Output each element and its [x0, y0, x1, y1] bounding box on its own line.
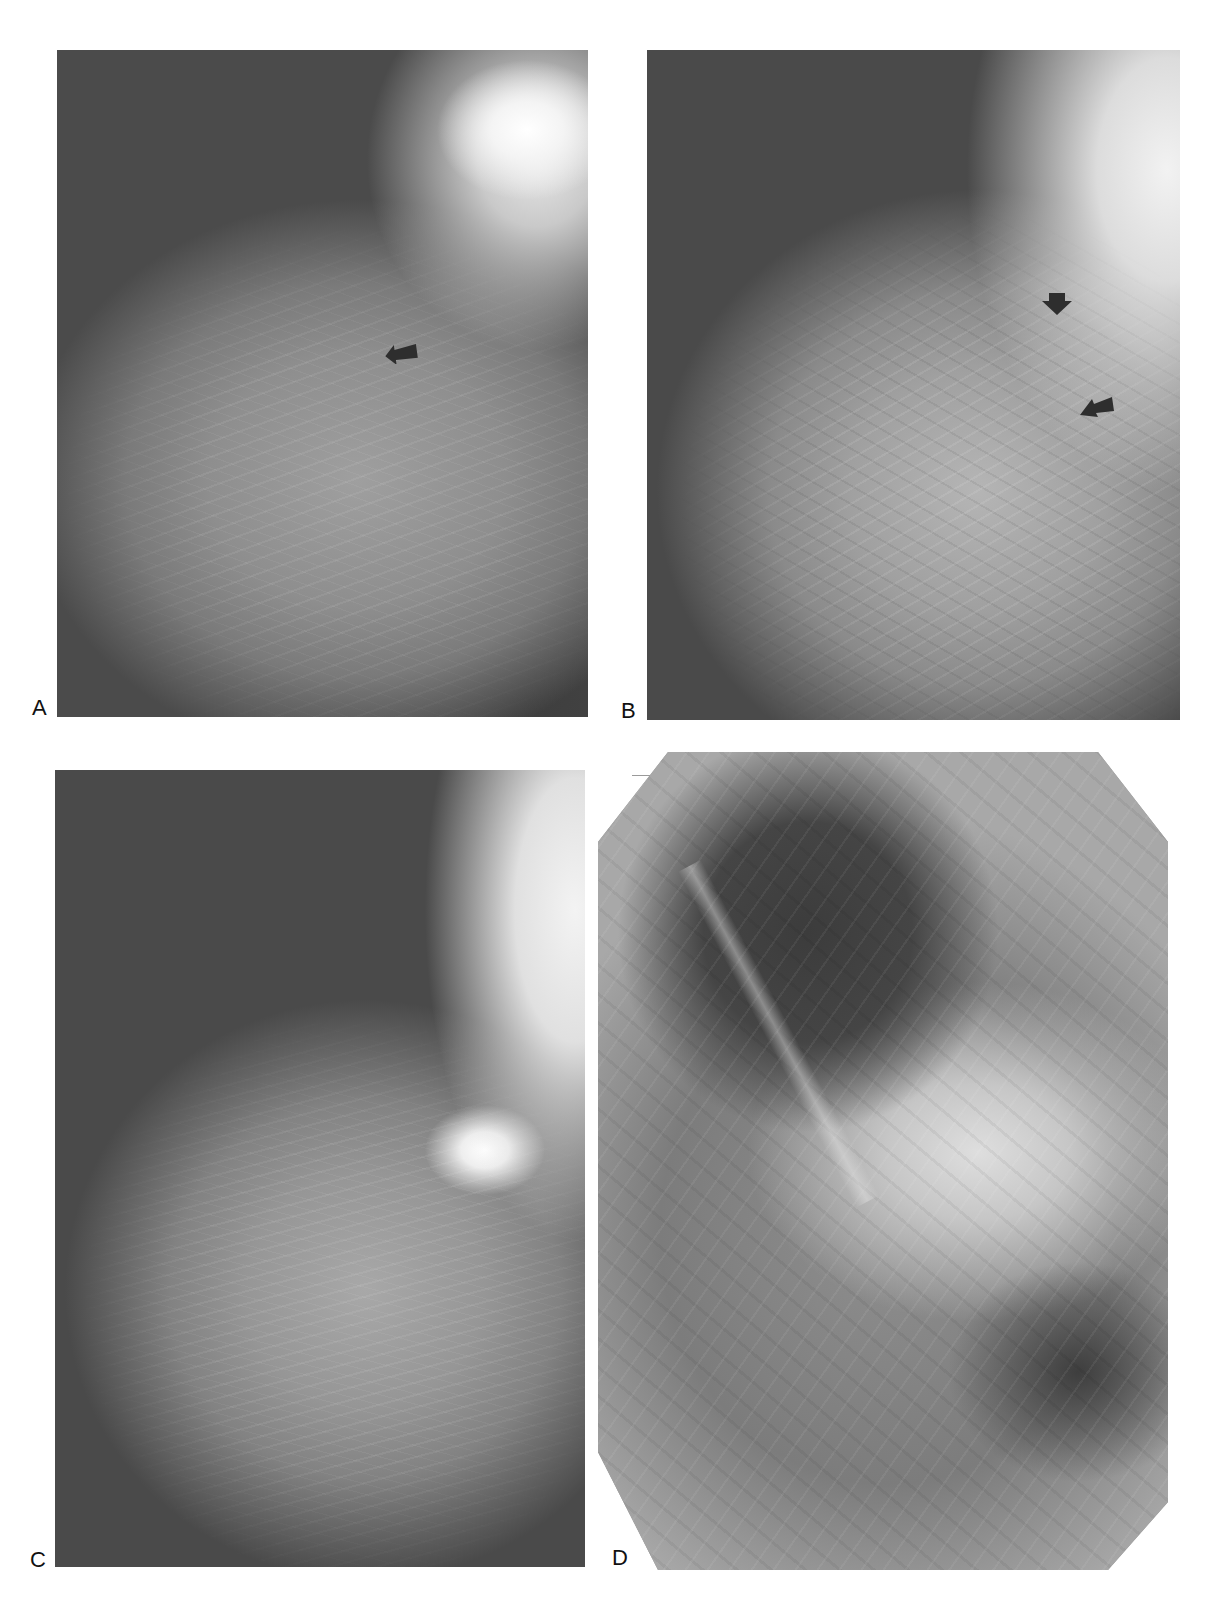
breast-tissue-texture	[55, 770, 585, 1567]
panel-label-a: A	[32, 697, 47, 719]
figure: A B C D	[0, 0, 1228, 1600]
panel-label-d: D	[612, 1547, 628, 1569]
breast-tissue-texture	[57, 50, 588, 717]
mammogram-panel-a	[57, 50, 588, 717]
panel-label-c: C	[30, 1549, 46, 1571]
mammogram-panel-d	[598, 752, 1168, 1570]
arrow-marker-icon	[385, 342, 419, 364]
arrow-marker-icon	[1080, 395, 1114, 417]
panel-label-b: B	[621, 700, 636, 722]
arrow-marker-icon	[1040, 293, 1074, 315]
mammogram-panel-b	[647, 50, 1180, 720]
breast-tissue-texture	[647, 50, 1180, 720]
mammogram-panel-c	[55, 770, 585, 1567]
